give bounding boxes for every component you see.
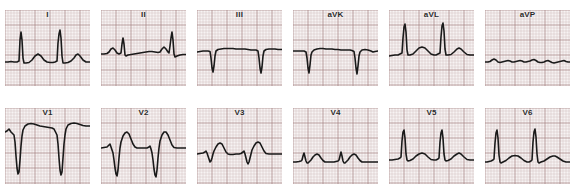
ecg-waveform-v4: [293, 108, 378, 184]
ecg-waveform-v1: [5, 108, 90, 184]
trace-line: [197, 49, 282, 74]
ecg-sheet: IIIIIIaVKaVLaVPV1V2V3V4V5V6: [0, 0, 577, 195]
ecg-lead-panel-v6: V6: [485, 108, 570, 184]
ecg-lead-panel-i: I: [5, 10, 90, 86]
ecg-waveform-avl: [389, 10, 474, 86]
ecg-lead-panel-v1: V1: [5, 108, 90, 184]
trace-line: [485, 129, 570, 163]
trace-line: [101, 32, 186, 57]
ecg-lead-panel-iii: III: [197, 10, 282, 86]
ecg-waveform-avk: [293, 10, 378, 86]
trace-line: [389, 130, 474, 161]
ecg-waveform-v6: [485, 108, 570, 184]
trace-line: [5, 30, 90, 63]
ecg-lead-panel-v2: V2: [101, 108, 186, 184]
trace-line: [101, 132, 186, 177]
trace-line: [389, 23, 474, 56]
trace-line: [5, 123, 90, 175]
ecg-lead-panel-v4: V4: [293, 108, 378, 184]
ecg-lead-panel-ii: II: [101, 10, 186, 86]
ecg-waveform-v5: [389, 108, 474, 184]
ecg-waveform-avp: [485, 10, 570, 86]
ecg-waveform-iii: [197, 10, 282, 86]
ecg-lead-panel-v3: V3: [197, 108, 282, 184]
trace-line: [293, 152, 378, 163]
ecg-waveform-ii: [101, 10, 186, 86]
trace-line: [485, 59, 570, 63]
trace-line: [293, 49, 378, 75]
trace-line: [197, 142, 282, 164]
ecg-lead-panel-avk: aVK: [293, 10, 378, 86]
ecg-lead-panel-avp: aVP: [485, 10, 570, 86]
ecg-waveform-v3: [197, 108, 282, 184]
ecg-waveform-i: [5, 10, 90, 86]
ecg-lead-panel-avl: aVL: [389, 10, 474, 86]
ecg-lead-panel-v5: V5: [389, 108, 474, 184]
ecg-waveform-v2: [101, 108, 186, 184]
